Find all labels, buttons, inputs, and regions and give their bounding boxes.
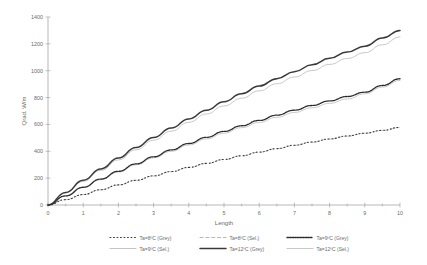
x-tick-label: 6 — [258, 210, 261, 216]
x-tick-label: 0 — [47, 210, 50, 216]
y-tick-label: 400 — [34, 148, 43, 154]
y-tick-label: 1200 — [31, 41, 43, 47]
x-tick-label: 5 — [223, 210, 226, 216]
legend-label-2: Ta=9ºC (Grey) — [317, 235, 349, 241]
x-tick-label: 4 — [187, 210, 190, 216]
x-tick-label: 10 — [397, 210, 403, 216]
series-line-1 — [48, 128, 400, 205]
x-tick-label: 3 — [152, 210, 155, 216]
x-tick-label: 1 — [82, 210, 85, 216]
y-tick-label: 600 — [34, 121, 43, 127]
radiation-length-chart: 0200400600800100012001400012345678910Len… — [0, 0, 427, 265]
x-tick-label: 2 — [117, 210, 120, 216]
legend-label-3: Ta=9ºC (Sel.) — [140, 246, 170, 252]
y-axis-title: Qrad. W/m — [21, 96, 27, 125]
y-tick-label: 1400 — [31, 14, 43, 20]
legend-label-5: Ta=12ºC (Sel.) — [317, 246, 350, 252]
series-line-2 — [48, 79, 400, 205]
series-line-0 — [48, 127, 400, 205]
series-line-3 — [48, 80, 400, 205]
x-tick-label: 8 — [328, 210, 331, 216]
legend-label-0: Ta=8ºC (Grey) — [140, 235, 172, 241]
x-tick-label: 7 — [293, 210, 296, 216]
y-tick-label: 1000 — [31, 68, 43, 74]
x-axis-title: Length — [215, 220, 233, 226]
chart-canvas: 0200400600800100012001400012345678910Len… — [0, 0, 427, 265]
legend-label-4: Ta=12ºC (Grey) — [230, 246, 265, 252]
y-tick-label: 800 — [34, 95, 43, 101]
y-tick-label: 200 — [34, 175, 43, 181]
x-tick-label: 9 — [363, 210, 366, 216]
y-tick-label: 0 — [40, 202, 43, 208]
legend-label-1: Ta=8ºC (Sel.) — [230, 235, 260, 241]
